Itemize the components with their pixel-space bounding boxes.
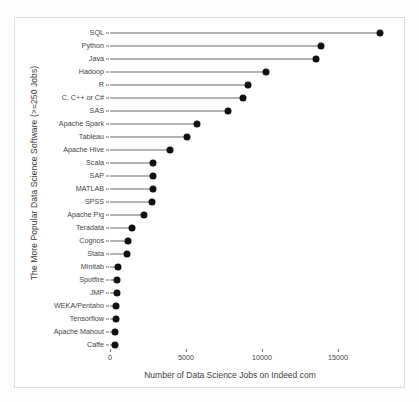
figure-frame <box>14 17 405 388</box>
y-axis-title: The More Popular Data Science Software (… <box>29 53 39 293</box>
figure-canvas: The More Popular Data Science Software (… <box>0 0 419 402</box>
x-axis-title: Number of Data Science Jobs on Indeed co… <box>100 370 360 380</box>
